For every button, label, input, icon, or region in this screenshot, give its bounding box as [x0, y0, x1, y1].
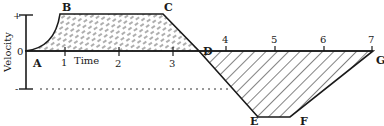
- positive-area-region: [25, 14, 199, 51]
- time-axis-label: Time: [74, 55, 99, 66]
- tick-label-1: 1: [61, 57, 67, 68]
- point-label-d: D: [203, 45, 213, 58]
- plus-mark: +: [13, 10, 21, 21]
- tick-label-6: 6: [320, 34, 326, 45]
- tick-label-7: 7: [368, 34, 374, 45]
- velocity-axis-label: Velocity: [2, 32, 13, 73]
- point-label-f: F: [300, 115, 308, 126]
- point-label-e: E: [250, 115, 258, 126]
- tick-label-3: 3: [169, 58, 175, 69]
- tick-label-2: 2: [115, 58, 121, 69]
- velocity-time-diagram: 1 2 3 4 5 6 7 Time Velocity + 0 - A B C …: [0, 0, 384, 126]
- tick-label-5: 5: [271, 34, 277, 45]
- point-label-g: G: [376, 54, 384, 67]
- zero-mark: 0: [17, 46, 23, 57]
- negative-area-region: [199, 51, 373, 117]
- point-label-c: C: [164, 1, 173, 14]
- minus-mark: -: [15, 83, 18, 94]
- tick-label-4: 4: [222, 34, 228, 45]
- point-label-b: B: [62, 1, 71, 14]
- point-label-a: A: [32, 57, 42, 70]
